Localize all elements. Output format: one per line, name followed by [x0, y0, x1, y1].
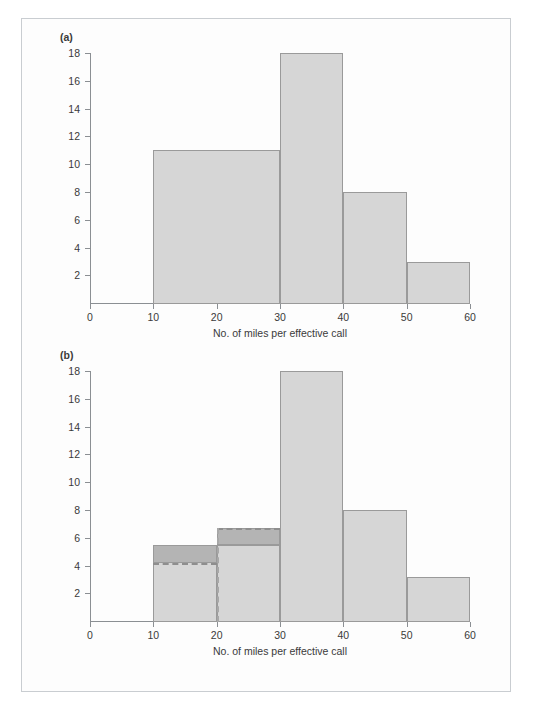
plot-a-ytick-8	[85, 192, 90, 193]
plot-b-xlabel-0: 0	[76, 629, 104, 641]
plot-a-ylabel-18: 18	[50, 47, 80, 59]
plot-b-ytick-6	[85, 538, 90, 539]
plot-b-ylabel-8: 8	[50, 504, 80, 516]
plot-a-ytick-6	[85, 220, 90, 221]
plot-b-ytick-2	[85, 593, 90, 594]
plot-a-ylabel-4: 4	[50, 242, 80, 254]
plot-b-xlabel-30: 30	[266, 629, 294, 641]
plot-b-dashed-ref-4	[153, 563, 216, 565]
plot-a-ylabel-6: 6	[50, 214, 80, 226]
plot-a-y-axis	[90, 53, 91, 303]
plot-b-xlabel-10: 10	[139, 629, 167, 641]
plot-a-ylabel-10: 10	[50, 158, 80, 170]
plot-b-ylabel-14: 14	[50, 421, 80, 433]
plot-b-bar-20-30	[217, 545, 280, 622]
plot-a-xtick-10	[153, 304, 154, 309]
plot-b-xlabel-40: 40	[329, 629, 357, 641]
page-top-caption	[18, 0, 515, 12]
plot-a-xlabel-40: 40	[329, 311, 357, 323]
plot-a-ytick-14	[85, 109, 90, 110]
plot-b-x-axis-title: No. of miles per effective call	[213, 645, 347, 657]
plot-b-xtick-60	[470, 622, 471, 627]
plot-b-ylabel-6: 6	[50, 532, 80, 544]
plot-b-ylabel-4: 4	[50, 560, 80, 572]
plot-a-ylabel-8: 8	[50, 186, 80, 198]
plot-a-bar-50-60	[407, 262, 470, 305]
plot-b-dashed-ref-6-7	[217, 528, 280, 530]
plot-b-ylabel-18: 18	[50, 365, 80, 377]
plot-a-ytick-10	[85, 164, 90, 165]
plot-a-xlabel-0: 0	[76, 311, 104, 323]
panel-b: (b) 18 16 14 12 10 8 6 4 2	[22, 329, 512, 693]
plot-b-ytick-10	[85, 482, 90, 483]
plot-a-ylabel-12: 12	[50, 130, 80, 142]
plot-a-ylabel-2: 2	[50, 269, 80, 281]
plot-b-ytick-14	[85, 427, 90, 428]
plot-a-xtick-40	[343, 304, 344, 309]
plot-b-xtick-10	[153, 622, 154, 627]
plot-b-ytick-8	[85, 510, 90, 511]
plot-a-xtick-60	[470, 304, 471, 309]
plot-b-ylabel-10: 10	[50, 476, 80, 488]
plot-b-overlay-band-10-20	[153, 545, 216, 563]
plot-a-ytick-12	[85, 136, 90, 137]
plot-a-xlabel-30: 30	[266, 311, 294, 323]
plot-b-bar-30-40	[280, 371, 343, 622]
plot-b-ytick-12	[85, 454, 90, 455]
plot-a-xlabel-60: 60	[456, 311, 484, 323]
plot-a-ylabel-16: 16	[50, 75, 80, 87]
plot-b-xtick-30	[280, 622, 281, 627]
plot-b-xtick-0	[90, 622, 91, 627]
plot-a-bar-30-40	[280, 53, 343, 304]
plot-a-xlabel-50: 50	[393, 311, 421, 323]
plot-b-dashed-divider-20	[217, 528, 219, 622]
plot-a-ytick-18	[85, 53, 90, 54]
panel-b-tag: (b)	[60, 349, 73, 361]
plot-a-bar-40-50	[343, 192, 406, 304]
plot-b-y-axis	[90, 371, 91, 621]
plot-b-ytick-4	[85, 566, 90, 567]
plot-b-xlabel-50: 50	[393, 629, 421, 641]
plot-a-xtick-0	[90, 304, 91, 309]
plot-b-xlabel-20: 20	[203, 629, 231, 641]
panel-a-tag: (a)	[60, 31, 73, 43]
plot-b-ytick-16	[85, 399, 90, 400]
plot-b-ylabel-16: 16	[50, 393, 80, 405]
plot-b-ylabel-12: 12	[50, 448, 80, 460]
plot-b-xtick-50	[407, 622, 408, 627]
plot-b-ytick-18	[85, 371, 90, 372]
plot-b-xtick-40	[343, 622, 344, 627]
plot-a-bar-10-30	[153, 150, 280, 304]
plot-a-xlabel-10: 10	[139, 311, 167, 323]
figure-frame: (a) 18 16 14 12 10 8 6 4 2	[21, 18, 511, 692]
plot-a-xlabel-20: 20	[203, 311, 231, 323]
plot-b-ylabel-2: 2	[50, 587, 80, 599]
plot-a-xtick-30	[280, 304, 281, 309]
plot-a-ytick-16	[85, 81, 90, 82]
plot-b-xtick-20	[217, 622, 218, 627]
plot-a-ylabel-14: 14	[50, 103, 80, 115]
plot-a-ytick-4	[85, 248, 90, 249]
plot-a-xtick-20	[217, 304, 218, 309]
plot-b-overlay-band-20-30	[217, 528, 280, 545]
plot-a-ytick-2	[85, 275, 90, 276]
panel-a: (a) 18 16 14 12 10 8 6 4 2	[22, 19, 512, 349]
plot-b-bar-50-60	[407, 577, 470, 622]
plot-b-xlabel-60: 60	[456, 629, 484, 641]
plot-b-bar-40-50	[343, 510, 406, 622]
plot-a-xtick-50	[407, 304, 408, 309]
